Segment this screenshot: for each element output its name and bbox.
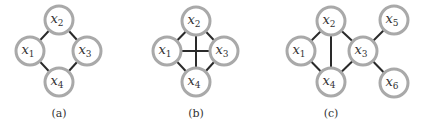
node-a-x1: x1 (16, 37, 44, 65)
node-a-x3: x3 (73, 37, 101, 65)
caption-b: (b) (188, 107, 204, 120)
node-b-x4: x4 (182, 68, 210, 96)
node-c-x5: x5 (380, 6, 408, 34)
node-c-x6: x6 (380, 69, 408, 97)
node-c-x3: x3 (349, 37, 377, 65)
graph-c: x1x2x3x4x5x6 (c) (287, 6, 408, 120)
node-c-x2: x2 (317, 7, 345, 35)
graph-diagram: x1x2x3x4 (a) x1x2x3x4 (b) x1x2x3x4x5x6 (… (0, 0, 422, 127)
node-a-x2: x2 (45, 6, 73, 34)
graph-a: x1x2x3x4 (a) (16, 6, 101, 120)
caption-c: (c) (324, 107, 339, 120)
caption-a: (a) (51, 107, 66, 120)
graph-b: x1x2x3x4 (b) (153, 7, 238, 120)
node-c-x1: x1 (287, 37, 315, 65)
node-c-x4: x4 (317, 68, 345, 96)
node-b-x2: x2 (182, 7, 210, 35)
node-b-x3: x3 (210, 37, 238, 65)
node-a-x4: x4 (45, 68, 73, 96)
node-b-x1: x1 (153, 37, 181, 65)
